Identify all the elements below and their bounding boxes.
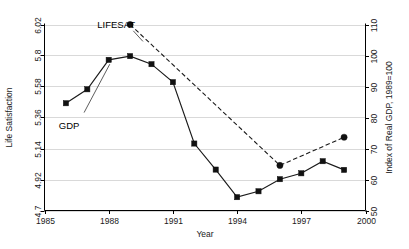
- ytick-label-left: 4.92: [33, 172, 43, 189]
- data-point-gdp: [149, 62, 154, 67]
- data-point-lifesat: [341, 134, 347, 140]
- data-point-gdp: [63, 101, 68, 106]
- ytick-label-right: 80: [369, 114, 379, 124]
- gridlines-group: [45, 26, 366, 212]
- data-point-gdp: [170, 80, 175, 85]
- ytick-label-left: 6.02: [33, 17, 43, 34]
- xtick-label: 1985: [36, 216, 55, 226]
- xtick-label: 1994: [228, 216, 247, 226]
- data-point-gdp: [256, 189, 261, 194]
- data-point-gdp: [342, 167, 347, 172]
- ytick-label-right: 60: [369, 176, 379, 186]
- ytick-label-right: 110: [369, 18, 379, 32]
- ytick-label-left: 5.58: [33, 78, 43, 95]
- data-point-gdp: [192, 141, 197, 146]
- x-axis-ticks: 198519881991199419972000: [36, 211, 376, 226]
- data-point-gdp: [299, 171, 304, 176]
- data-point-gdp: [106, 57, 111, 62]
- y-axis-ticks-left: 4.74.925.145.365.585.86.02: [33, 17, 45, 217]
- axis-title-right: Index of Real GDP, 1989=100: [384, 61, 394, 174]
- data-point-gdp: [277, 177, 282, 182]
- ytick-label-left: 5.36: [33, 109, 43, 126]
- series-label-lifesat: LIFESAT: [97, 19, 135, 30]
- data-point-lifesat: [277, 162, 283, 168]
- ytick-label-right: 70: [369, 145, 379, 155]
- y-axis-ticks-right: 5060708090100110: [366, 18, 380, 216]
- y-axis-label-right: Index of Real GDP, 1989=100: [384, 61, 394, 174]
- xtick-label: 1997: [292, 216, 311, 226]
- ytick-label-left: 5.8: [33, 49, 43, 61]
- series-markers-group: [63, 21, 347, 199]
- data-point-gdp: [235, 195, 240, 200]
- data-point-gdp: [213, 167, 218, 172]
- axis-title-left: Life Satisfaction: [4, 87, 14, 147]
- ytick-label-right: 100: [369, 49, 379, 63]
- series-line-lifesat: [130, 25, 344, 166]
- data-point-gdp: [128, 54, 133, 59]
- x-axis-label: Year: [196, 229, 213, 239]
- ytick-label-right: 90: [369, 83, 379, 93]
- ytick-label-left: 5.14: [33, 141, 43, 158]
- data-point-gdp: [320, 159, 325, 164]
- plot-frame: [45, 24, 366, 211]
- data-point-gdp: [85, 87, 90, 92]
- y-axis-label-left: Life Satisfaction: [4, 87, 14, 147]
- xtick-label: 1988: [100, 216, 119, 226]
- dual-axis-line-chart: 4.74.925.145.365.585.86.02 5060708090100…: [0, 0, 409, 249]
- axis-title-bottom: Year: [196, 229, 213, 239]
- series-annotations: LIFESATGDP: [59, 19, 143, 131]
- series-label-gdp: GDP: [59, 120, 80, 131]
- xtick-label: 2000: [357, 216, 376, 226]
- xtick-label: 1991: [164, 216, 183, 226]
- chart-container: 4.74.925.145.365.585.86.02 5060708090100…: [0, 0, 409, 249]
